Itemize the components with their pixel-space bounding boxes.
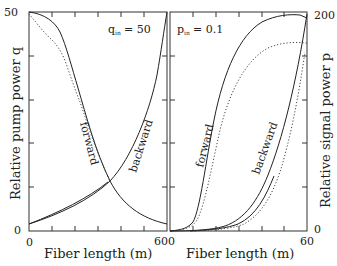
left-ylabel: Relative pump power q [8, 47, 23, 200]
right-forward-label: forward [193, 123, 216, 169]
right-xtick-right: 60 [300, 235, 314, 248]
left-panel: 50 0 0 60 Relative pump power q Fiber le… [4, 6, 168, 261]
left-backward-label: backward [126, 118, 155, 174]
left-param-annotation: q in = 50 [108, 23, 151, 36]
left-xtick-left: 0 [26, 236, 33, 249]
left-ytick-top: 50 [4, 6, 18, 19]
right-xlabel: Fiber length (m) [186, 246, 294, 261]
left-xlabel: Fiber length (m) [44, 246, 152, 261]
param-q-symbol: q [108, 23, 115, 36]
param-p-value: = 0.1 [193, 23, 223, 36]
right-ytick-bottom: 0 [314, 223, 321, 236]
left-forward-solid-curve [29, 12, 167, 224]
param-p-symbol: p [177, 23, 184, 36]
left-backward-solid-curve [29, 12, 167, 224]
right-xtick-left: 0 [168, 235, 175, 248]
right-y-ticks [170, 56, 307, 187]
right-forward-dotted-curve [170, 43, 307, 231]
param-p-sub: in [184, 29, 190, 36]
left-ytick-bottom: 0 [14, 224, 21, 237]
left-forward-label: forward [77, 120, 101, 166]
right-ylabel: Relative signal power p [318, 53, 333, 208]
right-backward-label: backward [250, 120, 281, 176]
left-top-ticks [52, 12, 144, 17]
figure: 50 0 0 60 Relative pump power q Fiber le… [0, 0, 337, 266]
right-param-annotation: p in = 0.1 [177, 23, 223, 36]
left-bottom-ticks [52, 226, 144, 231]
param-q-value: = 50 [124, 23, 151, 36]
right-plot-frame [170, 12, 307, 231]
right-top-ticks [193, 12, 284, 17]
right-ytick-top: 200 [314, 9, 335, 22]
right-forward-solid-curve [170, 15, 307, 231]
left-xtick-right: 60 [154, 235, 168, 248]
param-q-sub: in [115, 29, 121, 36]
left-backward-dotted-curve [29, 182, 108, 224]
right-panel: 200 0 0 60 Relative signal power p Fiber… [168, 9, 335, 261]
